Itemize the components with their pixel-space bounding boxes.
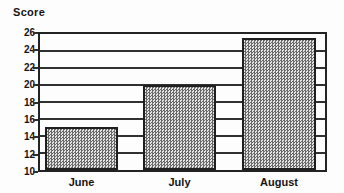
y-axis-tick-label: 10 [8,166,35,178]
y-axis-tick-label: 22 [8,62,35,74]
chart-title: Score [13,6,45,18]
y-axis-tick-label: 12 [8,149,35,161]
y-axis-tick-mark [33,32,38,34]
y-axis-tick-mark [33,102,38,104]
y-axis-tick-label: 20 [8,79,35,91]
y-axis-tick-label: 24 [8,44,35,56]
y-axis-tick-label: 16 [8,114,35,126]
y-axis-tick-mark [33,67,38,69]
y-axis-tick-mark [33,171,38,173]
y-axis-tick-label: 18 [8,97,35,109]
bar-july [143,85,216,170]
y-axis-tick-mark [33,119,38,121]
bar-chart-figure: Score 262422201816141210JuneJulyAugust [0,0,344,193]
y-axis-tick-label: 26 [8,27,35,39]
y-axis-tick-label: 14 [8,131,35,143]
y-axis-tick-mark [33,154,38,156]
y-axis-tick-mark [33,136,38,138]
y-axis-tick-mark [33,49,38,51]
bar-june [45,127,118,170]
x-axis-label-august: August [260,176,298,188]
bar-august [242,38,316,170]
x-axis-label-july: July [168,176,190,188]
plot-area [38,32,327,172]
y-axis-tick-mark [33,84,38,86]
x-axis-label-june: June [69,176,95,188]
